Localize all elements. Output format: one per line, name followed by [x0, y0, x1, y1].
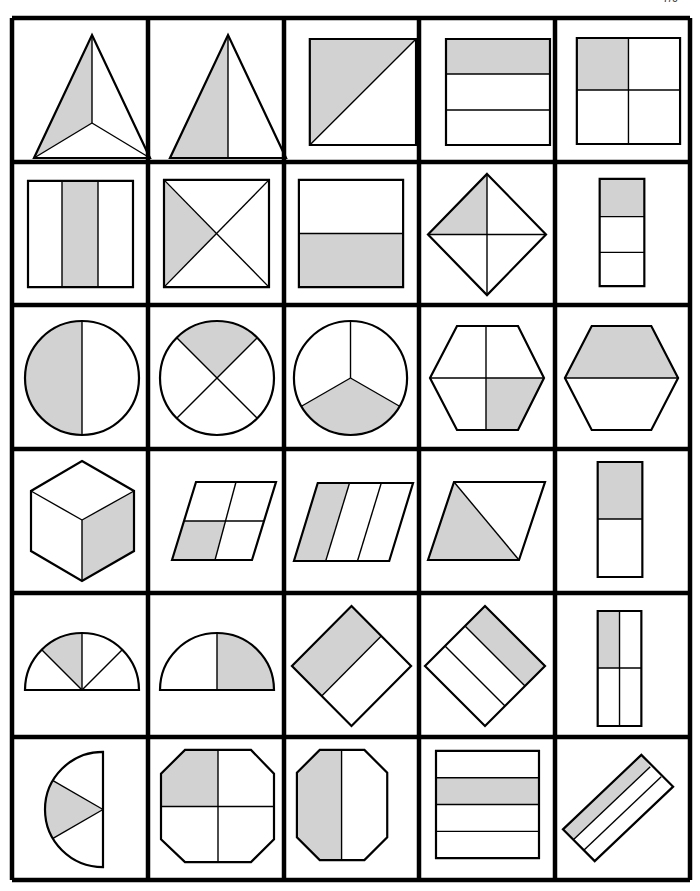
shape-cell-r5c4: [425, 606, 545, 726]
shaded-region: [565, 326, 678, 378]
shaded-region: [436, 778, 539, 805]
shape-cell-r2c1: [28, 181, 133, 287]
shape-cell-r3c2: [160, 321, 274, 435]
shape-cell-r6c1: [45, 752, 103, 867]
shaded-region: [598, 611, 620, 668]
shape-cell-r3c3: [294, 321, 407, 435]
shape-cell-r2c5: [600, 179, 645, 286]
shaded-region: [294, 483, 350, 561]
shape-cell-r5c2: [160, 633, 274, 690]
shaded-region: [164, 180, 217, 287]
shape-cell-r3c5: [565, 326, 678, 430]
shape-cell-r1c5: [577, 38, 680, 144]
shape-cell-r6c3: [297, 750, 387, 860]
shaded-region: [563, 755, 650, 839]
shape-cell-r1c3: [310, 39, 416, 145]
shape-cell-r4c3: [294, 483, 413, 561]
shaded-region: [598, 462, 643, 519]
shaded-region: [25, 321, 82, 435]
shaded-region: [600, 179, 645, 217]
division-line: [31, 491, 82, 520]
shape-cell-r4c4: [428, 482, 545, 560]
shape-cell-r4c1: [31, 461, 134, 581]
shape-cell-r5c5: [598, 611, 642, 726]
shape-cell-r6c4: [436, 751, 539, 858]
shape-cell-r3c1: [25, 321, 139, 435]
shape-cell-r6c5: [563, 755, 673, 861]
shape-cell-r1c1: [34, 35, 150, 158]
shaded-region: [45, 781, 103, 839]
shape-cell-r4c5: [598, 462, 643, 577]
shape-cell-r3c4: [430, 326, 544, 430]
shape-cell-r6c2: [161, 750, 274, 862]
shape-cell-r1c2: [170, 35, 286, 158]
shaded-region: [465, 606, 545, 686]
shaded-region: [446, 39, 550, 74]
shape-cell-r5c1: [25, 633, 139, 690]
shaded-region: [486, 378, 544, 430]
shape-cell-r2c2: [164, 180, 269, 287]
shaded-region: [302, 378, 399, 434]
rotated-rectangle-shape: [563, 755, 673, 861]
fraction-shapes-worksheet: [0, 0, 700, 891]
shaded-region: [577, 38, 629, 90]
shape-cell-r2c3: [299, 180, 403, 287]
shaded-region: [161, 750, 218, 807]
division-line: [357, 483, 381, 561]
shaded-region: [299, 234, 403, 288]
shaded-region: [42, 633, 82, 690]
division-line: [82, 650, 122, 690]
shape-cell-r1c4: [446, 39, 550, 145]
shaded-region: [82, 491, 134, 581]
shape-cell-r5c3: [292, 606, 411, 726]
shaded-region: [62, 181, 98, 287]
shape-cell-r2c4: [428, 174, 546, 295]
shape-cell-r4c2: [172, 482, 276, 560]
division-line: [574, 767, 650, 839]
